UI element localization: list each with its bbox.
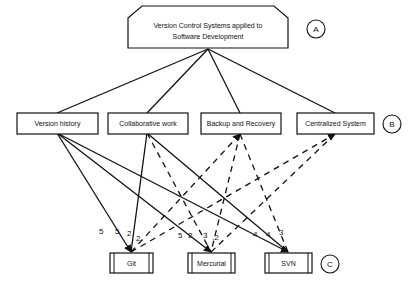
vcs-hierarchy-diagram: 5 5 2 2 5 2 3 ,2 4 4 3 Version Control S… bbox=[0, 0, 409, 294]
svg-text:Version history: Version history bbox=[35, 120, 81, 128]
alternative-mercurial[interactable]: Mercurial bbox=[188, 253, 235, 273]
alternative-git[interactable]: Git bbox=[110, 253, 153, 273]
svg-text:C: C bbox=[327, 260, 333, 269]
edge-label-vh-hg: 5 bbox=[178, 231, 183, 240]
root-label-line1: Version Control Systems applied to bbox=[154, 22, 263, 30]
svg-text:Mercurial: Mercurial bbox=[197, 260, 226, 267]
edge-labels: 5 5 2 2 5 2 3 ,2 4 4 3 bbox=[99, 227, 284, 243]
edge-label-cw-svn: 4 bbox=[266, 230, 271, 239]
svg-text:A: A bbox=[313, 25, 319, 34]
svg-text:SVN: SVN bbox=[281, 260, 295, 267]
criterion-collaborative-work[interactable]: Collaborative work bbox=[108, 113, 188, 134]
tag-b: B bbox=[383, 115, 401, 133]
edge-label-br-git: 2 bbox=[127, 229, 132, 238]
edge-label-br-svn: 3 bbox=[279, 228, 284, 237]
alternative-svn[interactable]: SVN bbox=[265, 253, 312, 273]
svg-text:Backup and Recovery: Backup and Recovery bbox=[207, 120, 276, 128]
tag-a: A bbox=[307, 20, 325, 38]
edge-label-cs-git: 2 bbox=[136, 234, 141, 243]
edge-label-vh-svn: 4 bbox=[253, 230, 258, 239]
svg-text:Collaborative work: Collaborative work bbox=[119, 120, 177, 127]
criterion-version-history[interactable]: Version history bbox=[17, 113, 98, 134]
root-label-line2: Software Development bbox=[173, 33, 244, 41]
edge-label-cw-git: 5 bbox=[115, 227, 120, 236]
svg-text:Git: Git bbox=[127, 260, 136, 267]
root-edges bbox=[57, 49, 335, 113]
criterion-backup-and-recovery[interactable]: Backup and Recovery bbox=[201, 113, 281, 134]
svg-text:B: B bbox=[389, 120, 394, 129]
tag-c: C bbox=[321, 255, 339, 273]
root-node[interactable]: Version Control Systems applied to Softw… bbox=[128, 6, 288, 48]
edge-label-cw-hg: 2 bbox=[188, 231, 193, 240]
edge-label-br-hg: 3 bbox=[203, 231, 208, 240]
edge-label-vh-git: 5 bbox=[99, 227, 104, 236]
svg-text:Centralized System: Centralized System bbox=[305, 120, 366, 128]
edge-label-cs-hg: ,2 bbox=[212, 233, 219, 242]
criterion-centralized-system[interactable]: Centralized System bbox=[297, 113, 374, 134]
dashed-edges bbox=[131, 133, 335, 252]
